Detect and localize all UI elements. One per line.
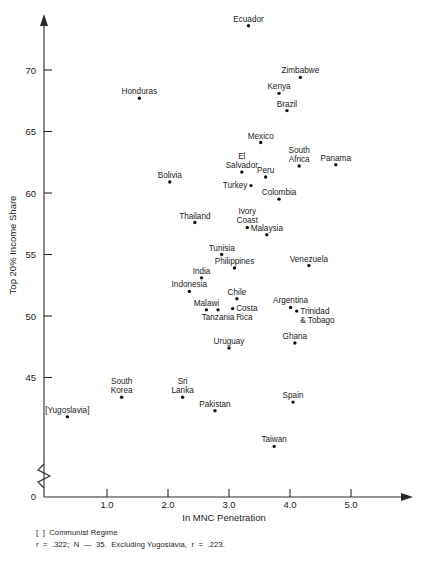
label-line: Mexico bbox=[248, 132, 274, 141]
data-point-malaysia[interactable] bbox=[265, 233, 268, 236]
label-line: Argentina bbox=[273, 296, 308, 305]
data-point-venezuela[interactable] bbox=[307, 264, 310, 267]
data-label-ghana: Ghana bbox=[283, 332, 308, 341]
data-point-el-salvador[interactable] bbox=[240, 170, 243, 173]
data-label-taiwan: Taiwan bbox=[261, 435, 287, 444]
data-label-colombia: Colombia bbox=[262, 188, 297, 197]
data-point-uruguay[interactable] bbox=[227, 346, 230, 349]
communist-regime-legend-note: [ ] Communist Regime bbox=[36, 528, 118, 537]
axis-origin-label: 0 bbox=[31, 491, 36, 502]
label-line: South bbox=[288, 146, 310, 155]
x-tick-label-5.0: 5.0 bbox=[344, 499, 357, 510]
data-label-bolivia: Bolivia bbox=[158, 171, 183, 180]
data-label-el-salvador: ElSalvador bbox=[226, 152, 259, 170]
data-label-indonesia: Indonesia bbox=[172, 280, 208, 289]
data-point-taiwan[interactable] bbox=[272, 445, 275, 448]
data-point-costa-rica[interactable] bbox=[231, 307, 234, 310]
data-point-ivory-coast[interactable] bbox=[246, 226, 249, 229]
data-point-zimbabwe[interactable] bbox=[299, 76, 302, 79]
y-axis-arrow-icon bbox=[40, 14, 48, 26]
data-point-spain[interactable] bbox=[291, 400, 294, 403]
label-line: Honduras bbox=[122, 87, 158, 96]
data-label-uruguay: Uruguay bbox=[214, 337, 246, 346]
label-line: Ghana bbox=[283, 332, 308, 341]
label-line: El bbox=[238, 152, 245, 161]
scatter-plot-canvas: 455055606570 1.02.03.04.05.0 0 In MNC Pe… bbox=[0, 0, 423, 562]
data-point-ghana[interactable] bbox=[293, 341, 296, 344]
data-point-trinidad-and-tobago[interactable] bbox=[295, 309, 298, 312]
label-line: Taiwan bbox=[261, 435, 287, 444]
y-axis-title: Top 20% Income Share bbox=[7, 196, 18, 295]
data-label-yugoslavia: [Yugoslavia] bbox=[45, 406, 89, 415]
label-line: Indonesia bbox=[172, 280, 208, 289]
label-line: Salvador bbox=[226, 161, 259, 170]
data-point-group: EcuadorZimbabweKenyaHondurasBrazilMexico… bbox=[45, 15, 351, 448]
data-label-malaysia: Malaysia bbox=[251, 224, 284, 233]
data-label-thailand: Thailand bbox=[179, 212, 211, 221]
data-label-philippines: Philippines bbox=[215, 257, 255, 266]
data-point-south-africa[interactable] bbox=[297, 164, 300, 167]
data-point-yugoslavia[interactable] bbox=[66, 415, 69, 418]
data-point-colombia[interactable] bbox=[277, 197, 280, 200]
label-line: Venezuela bbox=[290, 255, 329, 264]
y-tick-label-65: 65 bbox=[25, 126, 36, 137]
data-label-south-africa: SouthAfrica bbox=[288, 146, 310, 164]
data-point-malawi[interactable] bbox=[205, 308, 208, 311]
x-tick-label-3.0: 3.0 bbox=[222, 499, 235, 510]
data-point-sri-lanka[interactable] bbox=[181, 395, 184, 398]
label-line: Zimbabwe bbox=[281, 66, 319, 75]
label-line: Sri bbox=[178, 377, 188, 386]
label-line: Kenya bbox=[267, 82, 291, 91]
label-line: Peru bbox=[257, 166, 275, 175]
label-line: Turkey bbox=[223, 181, 249, 190]
data-point-honduras[interactable] bbox=[138, 97, 141, 100]
label-line: & Tobago bbox=[300, 316, 335, 325]
y-tick-label-45: 45 bbox=[25, 372, 36, 383]
label-line: [Yugoslavia] bbox=[45, 406, 89, 415]
data-point-kenya[interactable] bbox=[277, 92, 280, 95]
x-tick-label-2.0: 2.0 bbox=[161, 499, 174, 510]
y-axis-ticks: 455055606570 bbox=[25, 65, 52, 384]
data-point-pakistan[interactable] bbox=[213, 409, 216, 412]
data-label-india: India bbox=[193, 267, 211, 276]
data-point-mexico[interactable] bbox=[259, 141, 262, 144]
data-point-brazil[interactable] bbox=[285, 109, 288, 112]
y-tick-label-60: 60 bbox=[25, 188, 36, 199]
label-line: Panama bbox=[321, 154, 352, 163]
label-line: Philippines bbox=[215, 257, 255, 266]
data-point-indonesia[interactable] bbox=[188, 290, 191, 293]
label-line: Bolivia bbox=[158, 171, 183, 180]
data-point-argentina[interactable] bbox=[289, 306, 292, 309]
data-point-panama[interactable] bbox=[334, 163, 337, 166]
data-point-philippines[interactable] bbox=[233, 266, 236, 269]
label-line: South bbox=[111, 377, 133, 386]
label-line: Tanzania bbox=[202, 313, 235, 322]
data-label-sri-lanka: SriLanka bbox=[171, 377, 194, 395]
label-line: Spain bbox=[283, 391, 304, 400]
data-point-ecuador[interactable] bbox=[247, 24, 250, 27]
data-point-bolivia[interactable] bbox=[168, 180, 171, 183]
data-point-tunisia[interactable] bbox=[220, 253, 223, 256]
data-point-india[interactable] bbox=[200, 276, 203, 279]
data-point-peru[interactable] bbox=[264, 175, 267, 178]
data-point-south-korea[interactable] bbox=[120, 395, 123, 398]
data-label-argentina: Argentina bbox=[273, 296, 308, 305]
data-label-zimbabwe: Zimbabwe bbox=[281, 66, 319, 75]
x-axis-arrow-icon bbox=[401, 493, 413, 501]
data-label-costa-rica: CostaRica bbox=[236, 304, 258, 322]
label-line: Rica bbox=[236, 313, 253, 322]
label-line: India bbox=[193, 267, 211, 276]
data-label-trinidad-and-tobago: Trinidad& Tobago bbox=[300, 307, 335, 325]
data-point-thailand[interactable] bbox=[193, 221, 196, 224]
x-axis-title: In MNC Penetration bbox=[182, 512, 265, 523]
data-label-honduras: Honduras bbox=[122, 87, 158, 96]
data-point-tanzania[interactable] bbox=[216, 308, 219, 311]
data-point-chile[interactable] bbox=[235, 297, 238, 300]
data-label-spain: Spain bbox=[283, 391, 304, 400]
label-line: Ivory bbox=[238, 207, 257, 216]
y-tick-label-55: 55 bbox=[25, 249, 36, 260]
label-line: Uruguay bbox=[214, 337, 246, 346]
data-point-turkey[interactable] bbox=[249, 184, 252, 187]
label-line: Brazil bbox=[277, 100, 298, 109]
label-line: Malawi bbox=[194, 299, 220, 308]
